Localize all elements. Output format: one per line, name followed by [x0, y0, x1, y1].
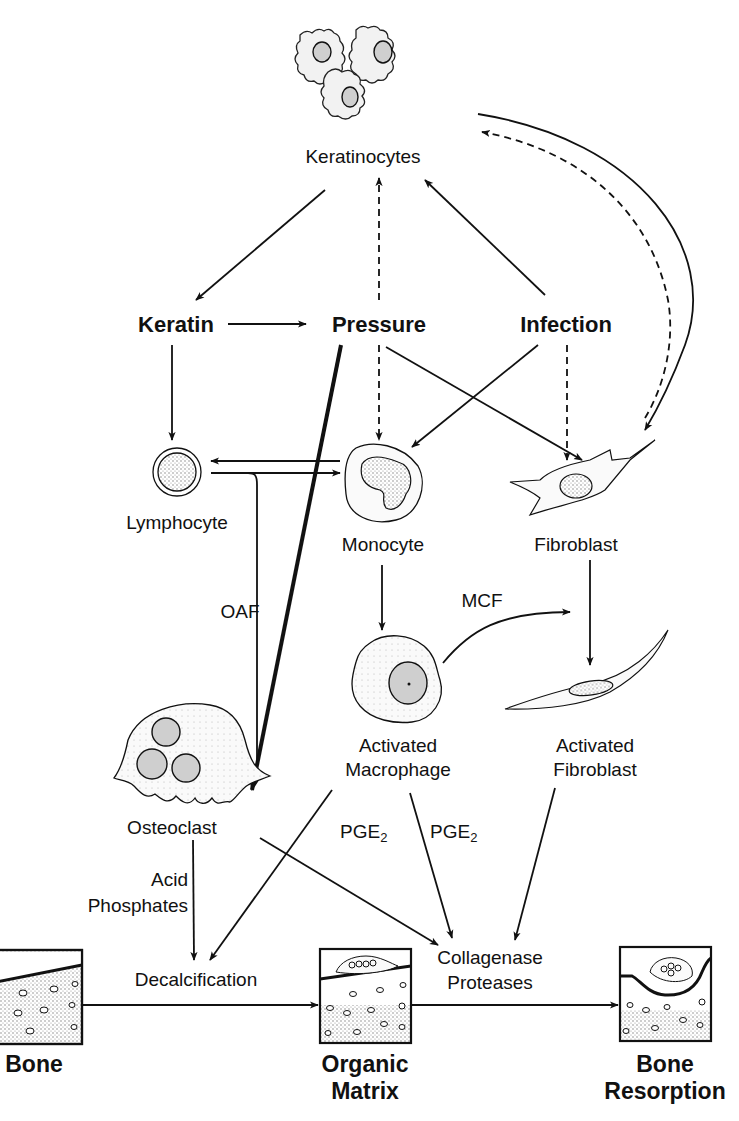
lymphocyte-cell-icon	[153, 448, 201, 496]
arrow-pressure-to-fibroblast	[386, 347, 582, 460]
activated-fibroblast-label-2: Fibroblast	[553, 759, 637, 780]
activated-macrophage-label-1: Activated	[359, 735, 437, 756]
arrow-pressure-to-osteoclast-thick	[252, 345, 341, 790]
organic-matrix-label-2: Matrix	[331, 1078, 399, 1104]
organic-matrix-box-icon	[320, 949, 411, 1043]
arrow-lymphocyte-to-osteoclast-oaf	[245, 473, 257, 784]
bone-resorption-label-1: Bone	[636, 1051, 694, 1077]
activated-fibroblast-label-1: Activated	[556, 735, 634, 756]
infection-label: Infection	[520, 312, 612, 337]
bone-box-icon	[0, 950, 82, 1044]
mcf-label: MCF	[461, 590, 502, 611]
lymphocyte-label: Lymphocyte	[126, 512, 228, 533]
arrow-infection-to-keratinocytes	[425, 180, 545, 295]
arrow-macrophage-to-decalcification	[210, 790, 332, 960]
bone-resorption-diagram: Keratinocytes Keratin Pressure Infection…	[0, 0, 739, 1121]
monocyte-label: Monocyte	[342, 534, 424, 555]
collagenase-label: Collagenase	[437, 947, 543, 968]
oaf-label: OAF	[220, 601, 259, 622]
keratinocytes-cell-icon	[295, 26, 395, 119]
arrow-macrophage-to-collagenase	[410, 793, 452, 938]
keratinocytes-label: Keratinocytes	[305, 146, 420, 167]
arrow-infection-to-monocyte	[412, 345, 538, 447]
pge2-left-label: PGE2	[340, 821, 387, 845]
proteases-label: Proteases	[447, 972, 533, 993]
arrow-osteoclast-to-decalcification	[193, 840, 194, 960]
decalcification-label: Decalcification	[135, 969, 258, 990]
arrow-mcf	[443, 612, 570, 663]
activated-macrophage-label-2: Macrophage	[345, 759, 451, 780]
acid-label: Acid	[151, 869, 188, 890]
fibroblast-label: Fibroblast	[534, 534, 618, 555]
osteoclast-cell-icon	[114, 704, 270, 804]
organic-matrix-label-1: Organic	[322, 1051, 409, 1077]
arrow-keratinocytes-to-keratin	[196, 190, 325, 300]
bone-resorption-label-2: Resorption	[604, 1078, 725, 1104]
osteoclast-label: Osteoclast	[127, 817, 217, 838]
keratin-label: Keratin	[138, 312, 214, 337]
bone-label: Bone	[5, 1051, 63, 1077]
arrow-activated-fibroblast-to-collagenase	[515, 788, 555, 940]
phosphates-label: Phosphates	[88, 895, 188, 916]
bone-resorption-box-icon	[620, 947, 711, 1041]
activated-fibroblast-cell-icon	[505, 630, 668, 709]
activated-macrophage-cell-icon	[352, 636, 441, 723]
arrow-fibroblast-to-keratinocytes-dashed	[482, 132, 670, 418]
fibroblast-cell-icon	[510, 440, 655, 515]
monocyte-cell-icon	[345, 444, 422, 522]
pressure-label: Pressure	[332, 312, 426, 337]
pge2-right-label: PGE2	[430, 821, 477, 845]
